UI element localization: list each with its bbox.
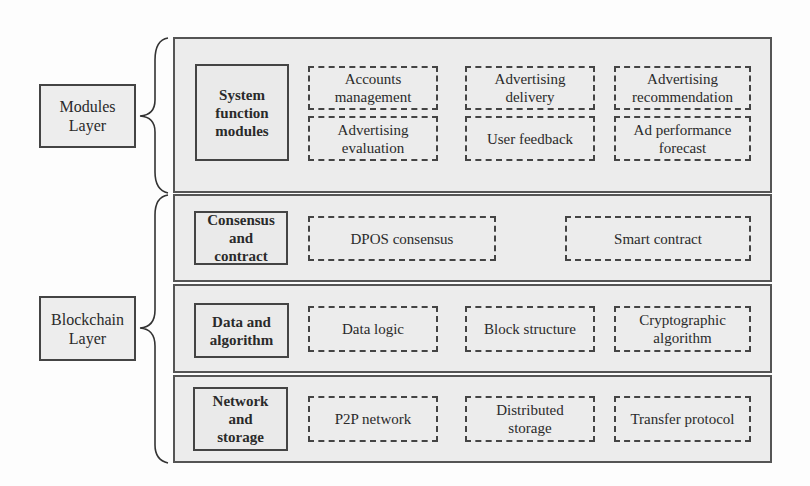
module-dpos-consensus: DPOS consensus [308, 216, 496, 261]
blockchain-layer-label: Blockchain Layer [39, 296, 136, 361]
module-label: Cryptographic algorithm [639, 311, 726, 347]
row-title-text: Network and storage [213, 392, 269, 446]
module-accounts-management: Accounts management [308, 66, 438, 110]
row-title-text: System function modules [215, 86, 268, 140]
module-block-structure: Block structure [465, 306, 595, 352]
modules-layer-text: Modules Layer [60, 97, 116, 135]
row-title-text: Consensus and contract [207, 211, 275, 265]
module-label: Ad performance forecast [634, 121, 732, 157]
module-label: DPOS consensus [351, 230, 454, 248]
module-smart-contract: Smart contract [565, 216, 751, 261]
module-advertising-evaluation: Advertising evaluation [308, 116, 438, 161]
module-label: P2P network [335, 410, 412, 428]
module-p2p-network: P2P network [308, 396, 438, 442]
module-label: User feedback [487, 130, 573, 148]
module-user-feedback: User feedback [465, 116, 595, 161]
module-distributed-storage: Distributed storage [465, 396, 595, 442]
modules-layer-label: Modules Layer [39, 84, 136, 148]
module-data-logic: Data logic [308, 306, 438, 352]
network-storage-title: Network and storage [193, 387, 288, 451]
module-ad-performance-forecast: Ad performance forecast [614, 116, 751, 161]
system-function-title: System function modules [195, 64, 289, 161]
module-label: Smart contract [614, 230, 702, 248]
data-algorithm-title: Data and algorithm [194, 303, 289, 358]
module-label: Advertising evaluation [338, 121, 409, 157]
module-label: Block structure [484, 320, 576, 338]
module-label: Advertising delivery [495, 70, 566, 106]
module-transfer-protocol: Transfer protocol [614, 396, 751, 442]
module-label: Data logic [342, 320, 404, 338]
module-label: Advertising recommendation [632, 70, 733, 106]
module-cryptographic-algorithm: Cryptographic algorithm [614, 306, 751, 352]
row-title-text: Data and algorithm [210, 313, 273, 349]
module-advertising-recommendation: Advertising recommendation [614, 66, 751, 110]
module-advertising-delivery: Advertising delivery [465, 66, 595, 110]
module-label: Accounts management [335, 70, 412, 106]
module-label: Distributed storage [496, 401, 564, 437]
consensus-title: Consensus and contract [194, 211, 288, 265]
module-label: Transfer protocol [630, 410, 734, 428]
blockchain-layer-text: Blockchain Layer [51, 310, 124, 348]
